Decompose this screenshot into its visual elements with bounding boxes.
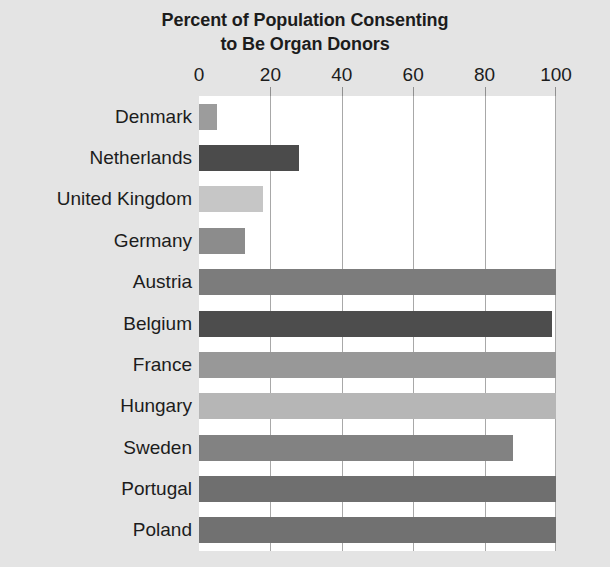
x-tick-mark-100 bbox=[555, 87, 556, 96]
bar-united-kingdom bbox=[199, 186, 263, 212]
x-tick-label-60: 60 bbox=[403, 64, 424, 86]
x-tick-label-20: 20 bbox=[260, 64, 281, 86]
plot-area bbox=[199, 96, 556, 551]
bar-row bbox=[199, 269, 556, 295]
y-axis-category-labels: DenmarkNetherlandsUnited KingdomGermanyA… bbox=[0, 96, 199, 551]
category-label-netherlands: Netherlands bbox=[7, 147, 199, 169]
bar-row bbox=[199, 476, 556, 502]
x-tick-mark-40 bbox=[342, 87, 343, 96]
bar-sweden bbox=[199, 435, 513, 461]
category-label-belgium: Belgium bbox=[7, 313, 199, 335]
bar-portugal bbox=[199, 476, 556, 502]
category-label-france: France bbox=[7, 354, 199, 376]
bar-row bbox=[199, 352, 556, 378]
category-label-portugal: Portugal bbox=[7, 478, 199, 500]
bar-row bbox=[199, 393, 556, 419]
category-label-germany: Germany bbox=[7, 230, 199, 252]
bar-row bbox=[199, 186, 556, 212]
x-tick-label-80: 80 bbox=[474, 64, 495, 86]
bar-france bbox=[199, 352, 556, 378]
category-label-sweden: Sweden bbox=[7, 437, 199, 459]
x-tick-mark-20 bbox=[270, 87, 271, 96]
category-label-hungary: Hungary bbox=[7, 395, 199, 417]
x-axis-tick-labels: 020406080100 bbox=[0, 64, 610, 90]
bar-belgium bbox=[199, 311, 552, 337]
x-tick-mark-60 bbox=[413, 87, 414, 96]
x-tick-label-40: 40 bbox=[331, 64, 352, 86]
x-tick-label-100: 100 bbox=[540, 64, 572, 86]
bar-row bbox=[199, 145, 556, 171]
bar-row bbox=[199, 228, 556, 254]
chart-title-line-2: to Be Organ Donors bbox=[0, 32, 610, 56]
bar-austria bbox=[199, 269, 556, 295]
category-label-austria: Austria bbox=[7, 271, 199, 293]
bar-row bbox=[199, 311, 556, 337]
category-label-united-kingdom: United Kingdom bbox=[7, 188, 199, 210]
bar-denmark bbox=[199, 104, 217, 130]
bar-poland bbox=[199, 517, 556, 543]
category-label-denmark: Denmark bbox=[7, 106, 199, 128]
bar-hungary bbox=[199, 393, 556, 419]
category-label-poland: Poland bbox=[7, 519, 199, 541]
chart-title: Percent of Population Consenting to Be O… bbox=[0, 8, 610, 56]
bar-netherlands bbox=[199, 145, 299, 171]
x-tick-label-0: 0 bbox=[194, 64, 205, 86]
bar-row bbox=[199, 517, 556, 543]
chart-figure: Percent of Population Consenting to Be O… bbox=[0, 0, 610, 567]
chart-title-line-1: Percent of Population Consenting bbox=[162, 10, 449, 30]
bar-germany bbox=[199, 228, 245, 254]
x-tick-mark-80 bbox=[485, 87, 486, 96]
bar-row bbox=[199, 104, 556, 130]
bar-row bbox=[199, 435, 556, 461]
